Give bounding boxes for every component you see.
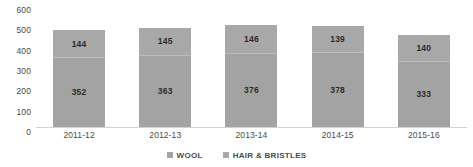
bar-stack[interactable]: 144352 [53,30,105,127]
bar-value-label: 376 [244,86,259,95]
bar-group[interactable]: 145363 [128,10,203,127]
y-axis-tick-label: 600 [17,5,31,15]
legend-label: WOOL [177,151,203,160]
bar-segment-wool[interactable]: 378 [312,53,364,127]
bar-value-label: 352 [72,88,87,97]
plot-area: 144352145363146376139378140333 [36,10,467,128]
y-axis-tick-label: 300 [17,66,31,76]
x-axis-tick-label: 2015-16 [386,130,461,144]
legend-item[interactable]: HAIR & BRISTLES [223,151,307,160]
stacked-bar-chart: 0100200300400500600 14435214536314637613… [0,0,473,167]
bar-segment-wool[interactable]: 363 [139,56,191,127]
legend-label: HAIR & BRISTLES [233,151,307,160]
bar-group[interactable]: 144352 [41,10,116,127]
bar-value-label: 146 [244,35,259,44]
bar-segment-wool[interactable]: 352 [53,58,105,127]
legend-item[interactable]: WOOL [167,151,203,160]
y-axis-tick-label: 400 [17,46,31,56]
chart-legend: WOOLHAIR & BRISTLES [0,148,473,162]
bar-segment-hair-bristles[interactable]: 146 [225,25,277,53]
legend-swatch-icon [167,152,173,158]
y-axis-tick-label: 100 [17,107,31,117]
bar-stack[interactable]: 146376 [225,25,277,127]
bar-stack[interactable]: 140333 [398,35,450,127]
bar-value-label: 363 [158,87,173,96]
bar-segment-hair-bristles[interactable]: 144 [53,30,105,58]
bar-segment-hair-bristles[interactable]: 139 [312,26,364,53]
y-axis-tick-label: 0 [26,127,31,137]
bar-segment-hair-bristles[interactable]: 145 [139,28,191,56]
bar-value-label: 378 [330,86,345,95]
bar-group[interactable]: 140333 [386,10,461,127]
x-axis-tick-label: 2014-15 [300,130,375,144]
bar-value-label: 140 [416,44,431,53]
y-axis-tick-label: 200 [17,86,31,96]
bar-value-label: 139 [330,35,345,44]
x-axis-tick-label: 2011-12 [41,130,116,144]
y-axis-tick-label: 500 [17,25,31,35]
x-axis-tick-label: 2012-13 [128,130,203,144]
y-axis: 0100200300400500600 [0,10,34,132]
bar-group[interactable]: 139378 [300,10,375,127]
bar-stack[interactable]: 139378 [312,26,364,127]
bar-value-label: 144 [72,40,87,49]
bar-stack[interactable]: 145363 [139,28,191,127]
bar-group[interactable]: 146376 [214,10,289,127]
bar-value-label: 333 [416,90,431,99]
bar-segment-hair-bristles[interactable]: 140 [398,35,450,62]
x-axis-baseline [36,127,467,128]
bar-value-label: 145 [158,37,173,46]
bar-segment-wool[interactable]: 376 [225,54,277,127]
x-axis-tick-label: 2013-14 [214,130,289,144]
bar-series-container: 144352145363146376139378140333 [36,10,467,127]
legend-swatch-icon [223,152,229,158]
x-axis: 2011-122012-132013-142014-152015-16 [36,130,467,144]
bar-segment-wool[interactable]: 333 [398,62,450,127]
